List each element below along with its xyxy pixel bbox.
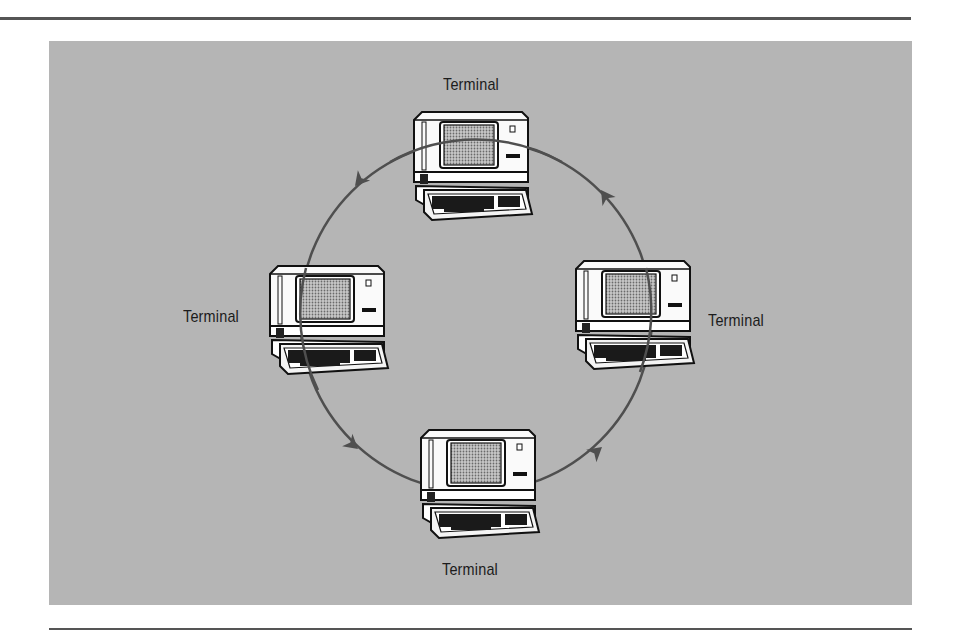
- bottom-rule: [49, 628, 912, 630]
- ring-network-diagram: [0, 0, 960, 638]
- terminal-left-label: Terminal: [183, 307, 239, 327]
- terminal-top-icon: [414, 112, 532, 220]
- terminal-left-icon: [270, 266, 388, 374]
- terminal-right-icon: [576, 261, 694, 369]
- arrow-lower-left-icon: [342, 434, 363, 455]
- arrow-upper-left-icon: [349, 170, 370, 191]
- terminal-bottom-label: Terminal: [442, 560, 498, 580]
- terminal-right-label: Terminal: [708, 311, 764, 331]
- terminal-bottom-icon: [421, 430, 539, 538]
- terminal-top-label: Terminal: [443, 75, 499, 95]
